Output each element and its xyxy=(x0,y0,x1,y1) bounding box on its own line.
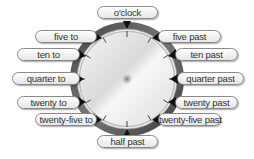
label-five-to: five to xyxy=(35,30,97,43)
label-ten-to: ten to xyxy=(17,48,80,61)
label-half-past: half past xyxy=(97,135,158,148)
label-twenty-five-past: twenty-five past xyxy=(158,113,221,126)
label-quarter-to: quarter to xyxy=(12,72,80,85)
label-oclock: o'clock xyxy=(97,6,158,19)
label-quarter-past: quarter past xyxy=(177,72,244,85)
label-twenty-five-to: twenty-five to xyxy=(35,113,97,126)
center-dot xyxy=(122,74,132,84)
label-ten-past: ten past xyxy=(175,48,238,61)
label-twenty-to: twenty to xyxy=(17,96,80,109)
label-twenty-past: twenty past xyxy=(175,96,238,109)
label-five-past: five past xyxy=(158,30,221,43)
